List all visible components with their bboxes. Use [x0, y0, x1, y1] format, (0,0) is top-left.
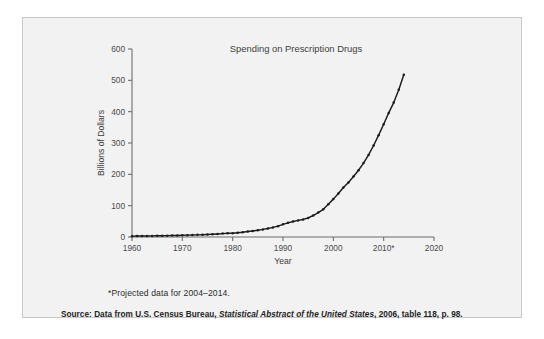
- data-point-1981: [236, 231, 239, 234]
- y-tick-label-500: 500: [111, 75, 125, 85]
- data-point-1963: [146, 235, 149, 238]
- data-point-1994: [302, 218, 305, 221]
- data-point-1989: [277, 225, 280, 228]
- data-point-1985: [257, 229, 260, 232]
- y-tick-label-300: 300: [111, 138, 125, 148]
- data-point-1987: [267, 227, 270, 230]
- x-tick-label-1960: 1960: [123, 243, 142, 253]
- data-point-1962: [141, 235, 144, 238]
- source-suffix: , 2006, table 118, p. 98.: [374, 310, 463, 319]
- prescription-drug-spending-chart: Spending on Prescription Drugs 010020030…: [23, 18, 523, 319]
- data-point-2011: [387, 112, 390, 115]
- y-tick-label-400: 400: [111, 107, 125, 117]
- data-point-2014: [403, 73, 406, 76]
- data-point-1990: [282, 223, 285, 226]
- x-tick-marks: [132, 237, 434, 241]
- y-tick-label-0: 0: [120, 232, 125, 242]
- data-point-1991: [287, 222, 290, 225]
- data-point-1964: [151, 235, 154, 238]
- data-point-1965: [156, 235, 159, 238]
- data-point-1982: [241, 231, 244, 234]
- data-point-1986: [262, 228, 265, 231]
- source-publication-title: Statistical Abstract of the United State…: [219, 310, 374, 319]
- data-point-1974: [201, 233, 204, 236]
- data-point-1988: [272, 226, 275, 229]
- data-point-1996: [312, 214, 315, 217]
- data-point-1992: [292, 220, 295, 223]
- data-point-1961: [136, 235, 139, 238]
- data-point-1984: [252, 230, 255, 233]
- figure-panel: Spending on Prescription Drugs 010020030…: [22, 17, 522, 318]
- data-point-1983: [247, 230, 250, 233]
- data-series-line: [132, 75, 404, 236]
- data-point-1975: [206, 233, 209, 236]
- data-series-markers: [131, 73, 405, 237]
- source-prefix: Source: Data from U.S. Census Bureau,: [61, 310, 219, 319]
- y-axis-title: Billions of Dollars: [96, 110, 106, 176]
- data-point-2013: [398, 88, 401, 91]
- data-point-1999: [327, 203, 330, 206]
- data-point-1970: [181, 234, 184, 237]
- x-tick-label-2020: 2020: [425, 243, 444, 253]
- data-point-1995: [307, 217, 310, 220]
- x-axis: 196019701980199020002010*2020 Year: [123, 237, 444, 266]
- data-point-1978: [221, 232, 224, 235]
- chart-title: Spending on Prescription Drugs: [230, 43, 363, 54]
- data-point-1980: [231, 232, 234, 235]
- data-point-1973: [196, 234, 199, 237]
- y-tick-marks: [128, 49, 132, 237]
- x-tick-label-1980: 1980: [223, 243, 242, 253]
- data-point-2001: [337, 192, 340, 195]
- x-axis-title: Year: [274, 256, 292, 266]
- data-point-1967: [166, 234, 169, 237]
- y-tick-label-200: 200: [111, 169, 125, 179]
- x-tick-label-2000: 2000: [324, 243, 343, 253]
- data-point-1977: [216, 233, 219, 236]
- data-point-2006: [362, 162, 365, 165]
- projected-data-footnote: *Projected data for 2004–2014.: [108, 288, 230, 298]
- y-axis: 0100200300400500600 Billions of Dollars: [96, 44, 132, 242]
- y-tick-label-600: 600: [111, 44, 125, 54]
- data-point-1968: [171, 234, 174, 237]
- data-point-1997: [317, 211, 320, 214]
- data-point-1972: [191, 234, 194, 237]
- source-citation: Source: Data from U.S. Census Bureau, St…: [61, 310, 463, 319]
- data-point-1969: [176, 234, 179, 237]
- data-point-1971: [186, 234, 189, 237]
- data-point-2007: [367, 154, 370, 157]
- x-tick-label-1990: 1990: [274, 243, 293, 253]
- x-tick-labels: 196019701980199020002010*2020: [123, 243, 444, 253]
- x-tick-label-1970: 1970: [173, 243, 192, 253]
- data-point-1998: [322, 208, 325, 211]
- data-point-2003: [347, 181, 350, 184]
- data-point-2002: [342, 186, 345, 189]
- y-tick-labels: 0100200300400500600: [111, 44, 125, 242]
- data-point-2012: [392, 101, 395, 104]
- data-point-1976: [211, 233, 214, 236]
- data-point-2010: [382, 123, 385, 126]
- data-point-2005: [357, 169, 360, 172]
- data-point-1966: [161, 235, 164, 238]
- data-point-2009: [377, 134, 380, 137]
- y-tick-label-100: 100: [111, 201, 125, 211]
- x-tick-label-2010: 2010*: [373, 243, 395, 253]
- data-point-2004: [352, 175, 355, 178]
- chart-plot-area: Spending on Prescription Drugs 010020030…: [23, 18, 523, 319]
- data-point-1993: [297, 219, 300, 222]
- data-point-2000: [332, 198, 335, 201]
- data-point-1979: [226, 232, 229, 235]
- data-point-1960: [131, 235, 134, 238]
- data-point-2008: [372, 144, 375, 147]
